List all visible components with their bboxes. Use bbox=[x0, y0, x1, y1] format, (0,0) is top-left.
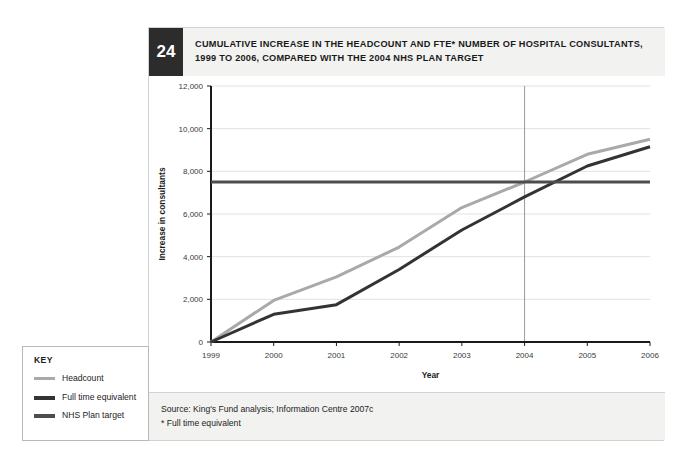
legend-color-swatch bbox=[34, 414, 55, 418]
chart-plot-area: 02,0004,0006,0008,00010,00012,000 199920… bbox=[149, 76, 665, 394]
source-line-2: * Full time equivalent bbox=[161, 416, 665, 430]
svg-text:2002: 2002 bbox=[390, 351, 408, 360]
legend-items: HeadcountFull time equivalentNHS Plan ta… bbox=[34, 373, 148, 422]
svg-text:2004: 2004 bbox=[516, 351, 534, 360]
legend-item: NHS Plan target bbox=[34, 410, 148, 422]
figure-screenshot: 24 CUMULATIVE INCREASE IN THE HEADCOUNT … bbox=[0, 0, 688, 466]
svg-text:0: 0 bbox=[199, 338, 204, 347]
chart-gridlines bbox=[211, 86, 650, 299]
svg-text:10,000: 10,000 bbox=[179, 125, 204, 134]
line-chart-svg: 02,0004,0006,0008,00010,00012,000 199920… bbox=[149, 76, 665, 394]
figure-title-line-1: CUMULATIVE INCREASE IN THE HEADCOUNT AND… bbox=[195, 37, 655, 51]
x-axis-tick-labels: 19992000200120022003200420052006 bbox=[202, 342, 659, 360]
legend-item-label: NHS Plan target bbox=[62, 410, 124, 422]
series-line-full-time-equivalent bbox=[211, 147, 650, 342]
legend-color-swatch bbox=[34, 377, 55, 380]
svg-text:4,000: 4,000 bbox=[183, 253, 204, 262]
chart-legend-key: KEY HeadcountFull time equivalentNHS Pla… bbox=[22, 346, 149, 441]
legend-item-label: Headcount bbox=[62, 373, 104, 385]
chart-series-layer bbox=[211, 139, 650, 342]
svg-text:2000: 2000 bbox=[265, 351, 283, 360]
svg-text:6,000: 6,000 bbox=[183, 210, 204, 219]
series-line-headcount bbox=[211, 139, 650, 342]
figure-title-line-2: 1999 TO 2006, COMPARED WITH THE 2004 NHS… bbox=[195, 51, 655, 65]
svg-text:12,000: 12,000 bbox=[179, 82, 204, 91]
figure-title: CUMULATIVE INCREASE IN THE HEADCOUNT AND… bbox=[183, 28, 665, 76]
y-axis-tick-labels: 02,0004,0006,0008,00010,00012,000 bbox=[179, 82, 211, 347]
svg-text:2005: 2005 bbox=[578, 351, 596, 360]
y-axis-title: Increase in consultants bbox=[157, 167, 167, 260]
legend-item: Headcount bbox=[34, 373, 148, 385]
svg-text:2001: 2001 bbox=[328, 351, 346, 360]
legend-color-swatch bbox=[34, 396, 55, 400]
svg-text:2,000: 2,000 bbox=[183, 295, 204, 304]
legend-item: Full time equivalent bbox=[34, 392, 148, 404]
x-axis-title: Year bbox=[422, 370, 440, 380]
svg-text:1999: 1999 bbox=[202, 351, 220, 360]
figure-source-note: Source: King's Fund analysis; Informatio… bbox=[149, 392, 665, 440]
svg-text:8,000: 8,000 bbox=[183, 167, 204, 176]
legend-title: KEY bbox=[34, 355, 148, 365]
source-line-1: Source: King's Fund analysis; Informatio… bbox=[161, 402, 665, 416]
legend-item-label: Full time equivalent bbox=[62, 392, 136, 404]
figure-number-badge: 24 bbox=[149, 28, 183, 76]
svg-text:2003: 2003 bbox=[453, 351, 471, 360]
figure-panel: 24 CUMULATIVE INCREASE IN THE HEADCOUNT … bbox=[148, 27, 664, 441]
figure-title-strip: 24 CUMULATIVE INCREASE IN THE HEADCOUNT … bbox=[149, 28, 665, 76]
svg-text:2006: 2006 bbox=[641, 351, 659, 360]
